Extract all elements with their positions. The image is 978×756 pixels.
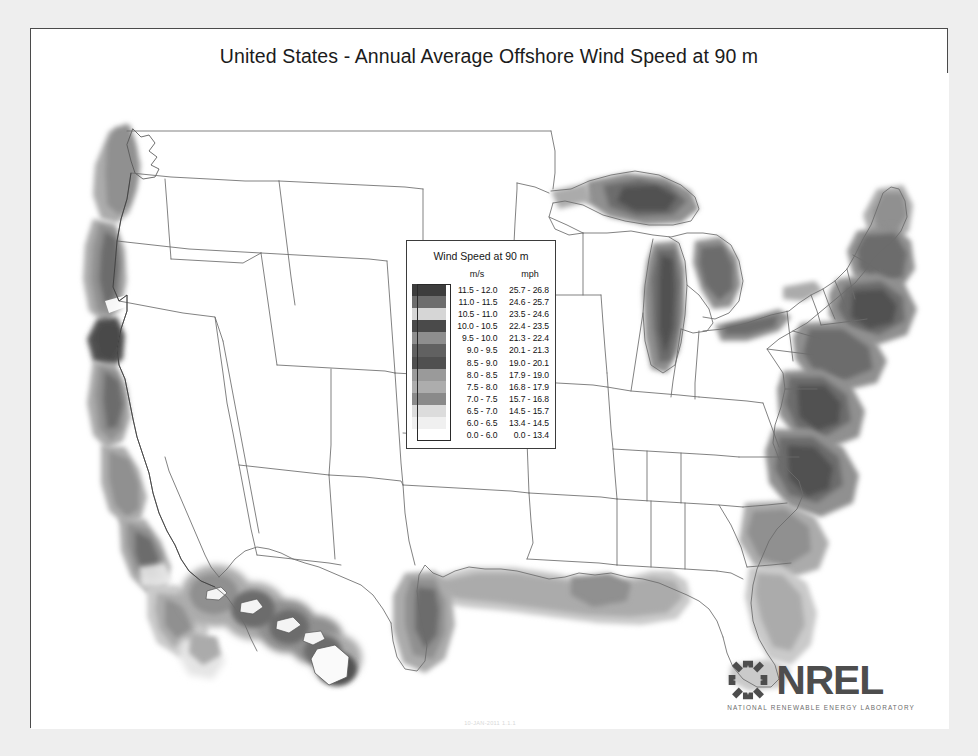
legend-mph-value: 23.5 - 24.6 [501,308,555,320]
legend-ms-value: 9.5 - 10.0 [446,332,501,344]
legend-ms-value: 11.5 - 12.0 [446,284,501,296]
page-title: United States - Annual Average Offshore … [31,45,947,68]
map-canvas: Wind Speed at 90 m m/s mph 11.5 - 12.025… [31,73,949,729]
legend-ms-value: 0.0 - 6.0 [446,429,501,441]
legend-swatch-cell [407,369,446,381]
legend-swatch-cell [407,357,446,369]
legend-ms-header: m/s [449,269,505,279]
nrel-logo: NREL NATIONAL RENEWABLE ENERGY LABORATOR… [727,659,915,711]
legend-swatch [412,320,446,332]
legend-swatch [412,296,446,308]
legend-mph-value: 0.0 - 13.4 [501,429,555,441]
legend-swatch [412,308,446,320]
nrel-mark-icon [727,659,769,701]
legend-row: 11.0 - 11.524.6 - 25.7 [407,296,555,308]
legend-mph-header: mph [505,269,555,279]
legend-swatch-cell [407,320,446,332]
legend-ms-value: 6.0 - 6.5 [446,417,501,429]
map-frame: United States - Annual Average Offshore … [30,28,948,728]
legend-row: 9.0 - 9.520.1 - 21.3 [407,344,555,356]
legend-mph-value: 22.4 - 23.5 [501,320,555,332]
legend-row: 7.5 - 8.016.8 - 17.9 [407,381,555,393]
legend-column-headers: m/s mph [407,269,555,279]
legend-swatch-cell [407,393,446,405]
legend-swatch-cell [407,417,446,429]
legend-ms-value: 8.0 - 8.5 [446,369,501,381]
date-stamp: 10-JAN-2011 1.1.1 [464,720,516,726]
legend-row: 8.0 - 8.517.9 - 19.0 [407,369,555,381]
legend-swatch-cell [407,381,446,393]
legend-rows: 11.5 - 12.025.7 - 26.811.0 - 11.524.6 - … [407,284,555,441]
page-background: United States - Annual Average Offshore … [0,0,978,756]
nrel-wordmark: NREL [776,660,883,700]
map-legend: Wind Speed at 90 m m/s mph 11.5 - 12.025… [406,240,556,449]
legend-row: 9.5 - 10.021.3 - 22.4 [407,332,555,344]
legend-ms-value: 7.0 - 7.5 [446,393,501,405]
legend-ms-value: 9.0 - 9.5 [446,344,501,356]
legend-row: 0.0 - 6.0 0.0 - 13.4 [407,429,555,441]
legend-swatch-cell [407,405,446,417]
legend-swatch-cell [407,429,446,441]
legend-swatch [412,369,446,381]
legend-swatch [412,357,446,369]
legend-swatch-cell [407,332,446,344]
legend-swatch [412,429,446,441]
legend-row: 7.0 - 7.515.7 - 16.8 [407,393,555,405]
legend-swatch-col-header [407,269,449,279]
legend-row: 10.0 - 10.522.4 - 23.5 [407,320,555,332]
legend-mph-value: 13.4 - 14.5 [501,417,555,429]
legend-swatch-cell [407,308,446,320]
legend-ms-value: 6.5 - 7.0 [446,405,501,417]
legend-swatch [412,417,446,429]
legend-ms-value: 10.5 - 11.0 [446,308,501,320]
legend-swatch-cell [407,284,446,296]
legend-mph-value: 20.1 - 21.3 [501,344,555,356]
legend-ms-value: 8.5 - 9.0 [446,357,501,369]
legend-swatch-cell [407,344,446,356]
legend-swatch [412,393,446,405]
legend-mph-value: 14.5 - 15.7 [501,405,555,417]
legend-mph-value: 17.9 - 19.0 [501,369,555,381]
legend-row: 6.0 - 6.513.4 - 14.5 [407,417,555,429]
legend-swatch-cell [407,296,446,308]
legend-swatch [412,332,446,344]
legend-row: 8.5 - 9.019.0 - 20.1 [407,357,555,369]
legend-swatch [412,381,446,393]
legend-mph-value: 21.3 - 22.4 [501,332,555,344]
legend-swatch [412,405,446,417]
nrel-tagline: NATIONAL RENEWABLE ENERGY LABORATORY [727,704,915,711]
legend-swatch [412,284,446,296]
legend-row: 11.5 - 12.025.7 - 26.8 [407,284,555,296]
legend-mph-value: 16.8 - 17.9 [501,381,555,393]
legend-row: 10.5 - 11.023.5 - 24.6 [407,308,555,320]
legend-mph-value: 19.0 - 20.1 [501,357,555,369]
legend-mph-value: 25.7 - 26.8 [501,284,555,296]
legend-ms-value: 10.0 - 10.5 [446,320,501,332]
legend-row: 6.5 - 7.014.5 - 15.7 [407,405,555,417]
legend-ms-value: 7.5 - 8.0 [446,381,501,393]
legend-ms-value: 11.0 - 11.5 [446,296,501,308]
legend-mph-value: 24.6 - 25.7 [501,296,555,308]
legend-mph-value: 15.7 - 16.8 [501,393,555,405]
legend-title: Wind Speed at 90 m [407,250,555,262]
legend-swatch [412,344,446,356]
